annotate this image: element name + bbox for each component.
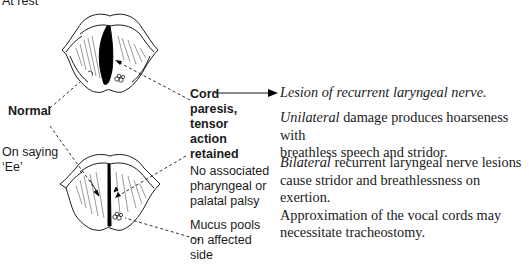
label-mucus-pools: Mucus pools on affected side xyxy=(190,218,260,263)
label-no-associated-line: No associated xyxy=(190,164,269,179)
label-cord-paresis: Cord paresis, tensor action retained xyxy=(190,87,239,162)
label-no-associated-line: pharyngeal or xyxy=(190,179,269,194)
connector-lines xyxy=(50,62,200,240)
bilateral-line4: necessitate tracheostomy. xyxy=(280,224,529,242)
label-cord-paresis-line: action xyxy=(190,132,239,147)
label-mucus-pools-line: on affected xyxy=(190,233,260,248)
larynx-on-saying-ee-figure xyxy=(60,155,160,231)
lesion-heading: Lesion of recurrent laryngeal nerve. xyxy=(280,84,529,102)
unilateral-line1: Unilateral damage produces hoarseness wi… xyxy=(280,109,529,144)
label-on-saying-line1: On saying xyxy=(2,145,58,160)
label-on-saying-line2: ‘Ee’ xyxy=(2,160,58,175)
label-cord-paresis-line: retained xyxy=(190,147,239,162)
arrowhead xyxy=(115,192,121,198)
label-mucus-pools-line: Mucus pools xyxy=(190,218,260,233)
label-at-rest: At rest xyxy=(2,0,38,9)
label-cord-paresis-line: paresis, xyxy=(190,102,239,117)
label-cord-paresis-line: tensor xyxy=(190,117,239,132)
bilateral-line2: cause stridor and breathlessness on exer… xyxy=(280,172,529,207)
label-cord-paresis-line: Cord xyxy=(190,87,239,102)
label-no-associated-palsy: No associated pharyngeal or palatal pals… xyxy=(190,164,269,209)
label-normal: Normal xyxy=(8,104,51,119)
arrowhead xyxy=(115,60,122,65)
bilateral-line1-rest: recurrent laryngeal nerve lesions xyxy=(331,154,522,170)
bilateral-line1: Bilateral recurrent laryngeal nerve lesi… xyxy=(280,154,529,172)
bilateral-emphasis: Bilateral xyxy=(280,154,331,170)
unilateral-emphasis: Unilateral xyxy=(280,109,340,125)
larynx-at-rest-figure xyxy=(62,14,158,92)
label-no-associated-line: palatal palsy xyxy=(190,194,269,209)
bilateral-paragraph: Bilateral recurrent laryngeal nerve lesi… xyxy=(280,154,529,242)
lesion-heading-text: Lesion of recurrent laryngeal nerve. xyxy=(280,84,487,100)
bilateral-line3: Approximation of the vocal cords may xyxy=(280,207,529,225)
label-on-saying: On saying ‘Ee’ xyxy=(2,145,58,175)
label-mucus-pools-line: side xyxy=(190,248,260,263)
